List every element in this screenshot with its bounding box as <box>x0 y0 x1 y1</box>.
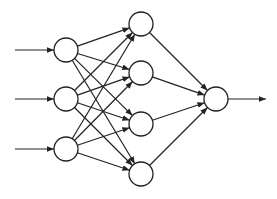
input-node-i2 <box>54 87 78 111</box>
connection-edge-h1-o1 <box>149 32 207 90</box>
connection-edge-i2-h1 <box>74 32 132 90</box>
connection-edge-i3-h2 <box>74 82 132 141</box>
connection-edges <box>72 28 207 170</box>
hidden-node-h2 <box>129 61 153 85</box>
input-node-i3 <box>54 137 78 161</box>
hidden-node-h3 <box>129 112 153 136</box>
input-node-i1 <box>54 38 78 62</box>
output-node-o1 <box>204 87 228 111</box>
hidden-node-h4 <box>129 162 153 186</box>
neural-network-diagram: feedforward-neural-network <box>0 0 277 199</box>
hidden-node-h1 <box>129 12 153 36</box>
neuron-nodes <box>54 12 228 186</box>
connection-edge-i3-h1 <box>72 34 135 138</box>
connection-edge-h4-o1 <box>149 107 207 165</box>
diagram-svg <box>0 0 277 199</box>
